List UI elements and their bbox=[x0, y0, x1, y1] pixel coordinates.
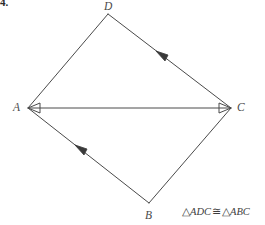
triangle-name-adc: ADC bbox=[190, 206, 211, 217]
triangle-name-abc: ABC bbox=[230, 206, 250, 217]
edge-ab bbox=[28, 108, 149, 203]
vertex-label-c: C bbox=[237, 101, 245, 113]
vertex-label-b: B bbox=[145, 209, 152, 221]
edge-dc-direction-arrow-icon bbox=[156, 51, 168, 61]
edge-dc bbox=[108, 14, 231, 108]
congruent-symbol-icon: ≅ bbox=[211, 206, 222, 217]
congruence-statement: △ADC≅△ABC bbox=[182, 205, 250, 218]
geometry-diagram-canvas bbox=[0, 0, 265, 225]
triangle-symbol-left-icon: △ bbox=[182, 206, 190, 217]
triangle-symbol-right-icon: △ bbox=[222, 206, 230, 217]
edge-ad bbox=[28, 14, 108, 108]
vertex-label-d: D bbox=[104, 0, 112, 12]
geometry-figure: 4. D A C B △ADC≅△ABC bbox=[0, 0, 265, 225]
edge-bc bbox=[149, 108, 231, 203]
problem-number: 4. bbox=[0, 0, 8, 8]
vertex-label-a: A bbox=[13, 101, 20, 113]
